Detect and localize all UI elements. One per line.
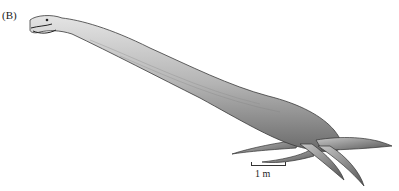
elasmosaur-illustration bbox=[0, 0, 399, 191]
scale-bar-line bbox=[251, 162, 286, 166]
scale-bar-label: 1 m bbox=[255, 168, 270, 179]
left-hind-flipper bbox=[262, 150, 314, 163]
eye bbox=[46, 19, 49, 22]
